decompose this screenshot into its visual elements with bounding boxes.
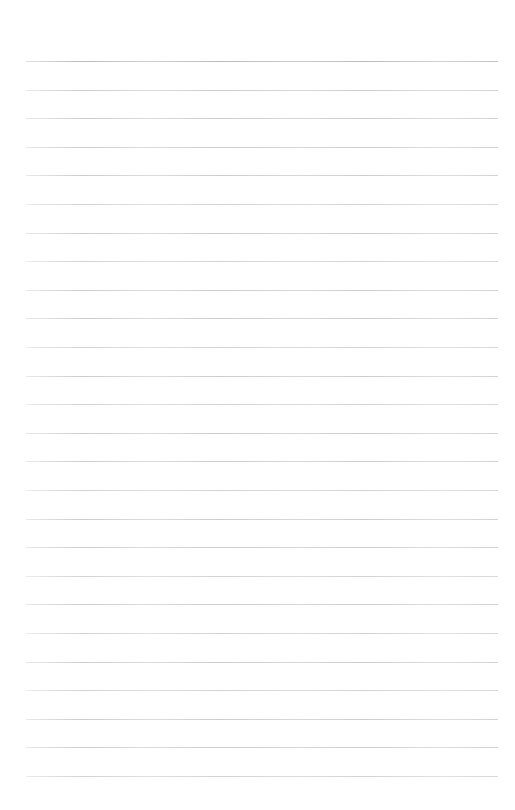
rule-line [26,519,498,520]
rule-line [26,61,498,62]
rule-line [26,318,498,319]
rule-line [26,604,498,605]
rule-line [26,776,498,777]
rule-line [26,404,498,405]
rule-line [26,576,498,577]
rule-line [26,261,498,262]
rule-line [26,376,498,377]
rule-line [26,490,498,491]
rule-line [26,633,498,634]
rule-line [26,290,498,291]
rule-line [26,233,498,234]
rule-line [26,461,498,462]
rule-line [26,204,498,205]
rule-line [26,347,498,348]
ruled-writing-area[interactable] [0,0,515,810]
ruled-paper-page [0,0,515,810]
rule-line [26,547,498,548]
rule-line [26,719,498,720]
rule-line [26,90,498,91]
rule-line [26,118,498,119]
rule-line [26,747,498,748]
rule-line [26,662,498,663]
rule-line [26,175,498,176]
rule-line [26,433,498,434]
rule-line [26,690,498,691]
rule-line [26,147,498,148]
